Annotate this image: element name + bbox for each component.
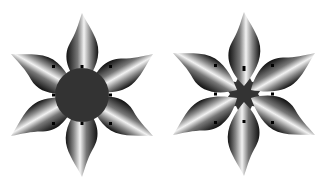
round-center [55, 68, 109, 122]
illustration-canvas [0, 0, 333, 185]
flower-left [3, 13, 161, 177]
flower-right [165, 12, 323, 176]
